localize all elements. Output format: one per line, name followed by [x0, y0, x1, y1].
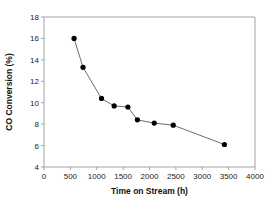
data-point	[125, 104, 130, 109]
data-point	[80, 65, 85, 70]
y-tick-label: 14	[30, 56, 39, 65]
line-chart: 4681012141618 05001000150020002500300035…	[0, 0, 276, 208]
x-tick-label: 3000	[193, 172, 211, 181]
data-point	[71, 36, 76, 41]
x-axis-title: Time on Stream (h)	[111, 186, 188, 196]
x-tick-label: 2500	[167, 172, 185, 181]
data-point	[99, 96, 104, 101]
y-tick-label: 8	[35, 120, 40, 129]
y-tick-label: 16	[30, 34, 39, 43]
data-point	[112, 103, 117, 108]
data-point	[171, 123, 176, 128]
x-tick-label: 1500	[114, 172, 132, 181]
data-point	[222, 142, 227, 147]
x-tick-label: 2000	[141, 172, 159, 181]
y-tick-label: 4	[35, 163, 40, 172]
series-markers-co-conversion	[71, 36, 227, 147]
chart-figure: 4681012141618 05001000150020002500300035…	[0, 0, 276, 208]
y-tick-label: 6	[35, 142, 40, 151]
x-tick-label: 3500	[220, 172, 238, 181]
y-tick-label: 10	[30, 99, 39, 108]
data-point	[152, 120, 157, 125]
x-axis-tick-labels: 05001000150020002500300035004000	[42, 172, 265, 181]
y-axis-tick-labels: 4681012141618	[30, 13, 39, 172]
y-tick-label: 18	[30, 13, 39, 22]
x-tick-label: 0	[42, 172, 47, 181]
x-tick-label: 4000	[246, 172, 264, 181]
series-line-co-conversion	[74, 38, 224, 144]
y-axis-title: CO Conversion (%)	[4, 53, 14, 131]
x-tick-label: 500	[64, 172, 78, 181]
data-point	[135, 117, 140, 122]
x-tick-label: 1000	[88, 172, 106, 181]
y-tick-label: 12	[30, 77, 39, 86]
